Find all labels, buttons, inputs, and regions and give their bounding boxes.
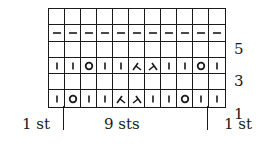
yarn-over-icon (195, 60, 207, 72)
chart-cell (129, 25, 145, 41)
knit-icon (83, 93, 95, 105)
chart-cell (193, 90, 209, 106)
chart-cell (177, 25, 193, 41)
knit-icon (99, 60, 111, 72)
purl-icon (67, 27, 79, 39)
chart-cell (145, 74, 161, 90)
chart-cell (161, 9, 177, 25)
chart-cell (113, 74, 129, 90)
chart-cell (65, 58, 81, 74)
left-repeat-divider (63, 106, 64, 130)
purl-icon (83, 27, 95, 39)
chart-cell (81, 58, 97, 74)
chart-cell (161, 74, 177, 90)
chart-cell (65, 42, 81, 58)
knit-icon (147, 93, 159, 105)
k2tog-icon (115, 93, 127, 105)
chart-cell (161, 58, 177, 74)
repeat-stitch-label: 9 sts (104, 115, 140, 133)
chart-cell (97, 25, 113, 41)
chart-cell (177, 90, 193, 106)
purl-icon (211, 27, 223, 39)
chart-cell (129, 42, 145, 58)
chart-cell (209, 74, 225, 90)
chart-cell (49, 25, 65, 41)
knit-icon (51, 93, 63, 105)
chart-cell (145, 42, 161, 58)
chart-cell (145, 25, 161, 41)
chart-cell (49, 74, 65, 90)
chart-cell (81, 25, 97, 41)
chart-cell (177, 9, 193, 25)
row-label-3: 3 (234, 73, 244, 89)
row-label-5: 5 (234, 41, 244, 57)
purl-icon (115, 27, 127, 39)
chart-cell (81, 90, 97, 106)
knit-icon (163, 60, 175, 72)
chart-cell (161, 42, 177, 58)
chart-cell (49, 9, 65, 25)
chart-cell (113, 58, 129, 74)
yarn-over-icon (83, 60, 95, 72)
chart-cell (145, 90, 161, 106)
knit-icon (211, 93, 223, 105)
yarn-over-icon (179, 93, 191, 105)
chart-cell (113, 42, 129, 58)
knitting-chart (48, 8, 226, 108)
chart-cell (49, 42, 65, 58)
chart-cell (113, 25, 129, 41)
chart-cell (145, 9, 161, 25)
chart-cell (129, 58, 145, 74)
chart-cell (209, 9, 225, 25)
ssk-icon (131, 93, 143, 105)
purl-icon (131, 27, 143, 39)
chart-cell (49, 58, 65, 74)
chart-cell (129, 74, 145, 90)
chart-cell (65, 9, 81, 25)
purl-icon (99, 27, 111, 39)
knit-icon (51, 60, 63, 72)
chart-cell (177, 74, 193, 90)
chart-grid (48, 8, 226, 108)
right-edge-stitch-label: 1 st (224, 115, 252, 133)
chart-cell (65, 90, 81, 106)
chart-cell (161, 25, 177, 41)
knit-icon (195, 93, 207, 105)
chart-cell (65, 25, 81, 41)
chart-cell (49, 90, 65, 106)
chart-cell (81, 74, 97, 90)
chart-cell (129, 90, 145, 106)
purl-icon (51, 27, 63, 39)
ssk-icon (147, 60, 159, 72)
chart-cell (97, 90, 113, 106)
chart-cell (81, 42, 97, 58)
chart-cell (193, 74, 209, 90)
chart-cell (209, 58, 225, 74)
yarn-over-icon (67, 93, 79, 105)
chart-cell (177, 42, 193, 58)
chart-cell (209, 90, 225, 106)
k2tog-icon (131, 60, 143, 72)
chart-cell (193, 58, 209, 74)
chart-cell (81, 9, 97, 25)
purl-icon (179, 27, 191, 39)
chart-cell (97, 58, 113, 74)
chart-cell (161, 90, 177, 106)
chart-cell (209, 42, 225, 58)
knit-icon (163, 93, 175, 105)
chart-cell (193, 25, 209, 41)
knit-icon (67, 60, 79, 72)
purl-icon (163, 27, 175, 39)
purl-icon (195, 27, 207, 39)
chart-cell (97, 74, 113, 90)
chart-cell (97, 9, 113, 25)
chart-cell (193, 9, 209, 25)
left-edge-stitch-label: 1 st (22, 115, 50, 133)
chart-cell (97, 42, 113, 58)
knit-icon (99, 93, 111, 105)
chart-cell (65, 74, 81, 90)
knit-icon (115, 60, 127, 72)
chart-cell (113, 90, 129, 106)
knit-icon (179, 60, 191, 72)
chart-cell (113, 9, 129, 25)
